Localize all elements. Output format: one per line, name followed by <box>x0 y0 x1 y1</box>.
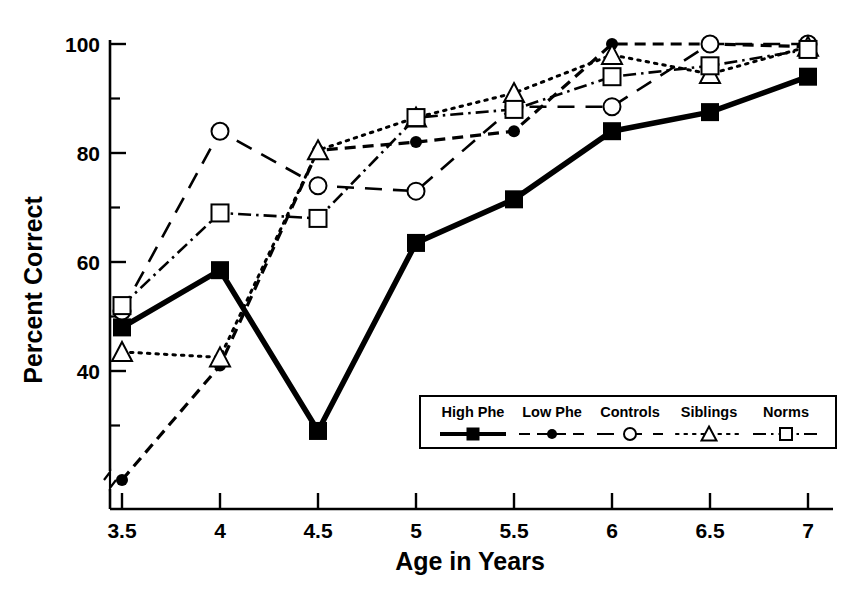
x-tick-label: 4 <box>214 519 226 542</box>
data-point-filled-circle <box>410 136 422 148</box>
legend-label-controls[interactable]: Controls <box>600 404 660 420</box>
x-tick-label: 4.5 <box>303 519 333 542</box>
data-point-filled-square <box>701 103 719 121</box>
data-point-open-square <box>408 109 425 126</box>
data-point-filled-square <box>113 318 131 336</box>
data-point-open-square <box>114 297 131 314</box>
data-point-filled-square <box>799 68 817 86</box>
data-point-filled-circle <box>508 125 520 137</box>
line-chart-canvas: 406080100 3.544.555.566.57 Percent Corre… <box>0 0 850 601</box>
y-axis-title: Percent Correct <box>19 196 47 384</box>
legend-label-low-phe[interactable]: Low Phe <box>522 404 582 420</box>
data-point-open-square <box>506 101 523 118</box>
data-point-filled-square <box>407 234 425 252</box>
data-point-open-square <box>800 41 817 58</box>
data-point-open-circle <box>604 98 621 115</box>
data-point-filled-square <box>505 190 523 208</box>
x-tick-label: 6 <box>606 519 618 542</box>
x-axis-title: Age in Years <box>395 547 545 575</box>
chart-legend[interactable]: High PheLow PheControlsSiblingsNorms <box>420 396 836 448</box>
x-tick-label: 5.5 <box>499 519 529 542</box>
data-point-filled-square <box>467 428 480 441</box>
data-point-filled-circle <box>116 474 128 486</box>
chart-figure: 406080100 3.544.555.566.57 Percent Corre… <box>0 0 850 601</box>
data-point-open-circle <box>702 36 719 53</box>
data-point-filled-square <box>309 422 327 440</box>
data-point-filled-circle <box>547 429 557 439</box>
legend-label-siblings[interactable]: Siblings <box>681 404 737 420</box>
legend-label-high-phe[interactable]: High Phe <box>442 404 505 420</box>
x-tick-label: 5 <box>410 519 422 542</box>
data-point-open-circle <box>310 177 327 194</box>
data-point-open-square <box>604 68 621 85</box>
data-point-open-square <box>780 428 792 440</box>
data-point-open-square <box>212 204 229 221</box>
x-tick-label: 7 <box>802 519 814 542</box>
y-tick-label: 60 <box>77 251 100 274</box>
y-tick-label: 80 <box>77 142 100 165</box>
x-tick-label: 3.5 <box>107 519 137 542</box>
data-point-filled-square <box>603 122 621 140</box>
data-point-open-square <box>310 210 327 227</box>
legend-label-norms[interactable]: Norms <box>763 404 809 420</box>
x-tick-label: 6.5 <box>695 519 725 542</box>
data-point-open-circle <box>212 123 229 140</box>
y-tick-label: 100 <box>65 33 100 56</box>
data-point-open-circle <box>624 428 636 440</box>
y-tick-label: 40 <box>77 360 100 383</box>
data-point-open-circle <box>408 183 425 200</box>
data-point-open-square <box>702 57 719 74</box>
data-point-filled-square <box>211 261 229 279</box>
